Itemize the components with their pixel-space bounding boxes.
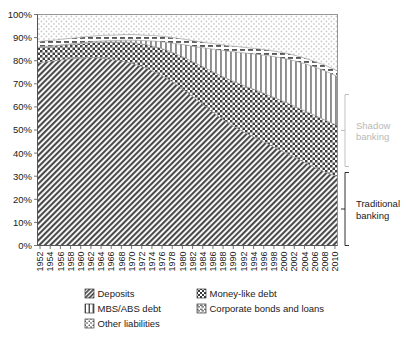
x-tick-label: 1956 <box>56 252 66 272</box>
x-tick-label: 1980 <box>178 252 188 272</box>
y-tick-label: 10% <box>13 217 33 228</box>
x-axis-ticks: 1952195419561958196019621964196619681970… <box>35 246 340 272</box>
traditional-banking-bracket-label: Traditional <box>356 198 400 209</box>
plot-area <box>38 15 338 246</box>
chart-legend: DepositsMBS/ABS debtOther liabilitiesMon… <box>85 288 324 329</box>
x-tick-label: 1964 <box>96 252 106 272</box>
x-tick-label: 1952 <box>35 252 45 272</box>
chart-container: 0%10%20%30%40%50%60%70%80%90%100% 195219… <box>0 0 408 343</box>
x-tick-label: 2002 <box>289 252 299 272</box>
legend-swatch-deposits <box>85 289 94 298</box>
y-tick-label: 100% <box>8 9 33 20</box>
x-tick-label: 2000 <box>279 252 289 272</box>
x-tick-label: 1970 <box>127 252 137 272</box>
legend-label-other-liabilities: Other liabilities <box>98 318 161 329</box>
legend-label-money-like-debt: Money-like debt <box>210 288 277 299</box>
legend-label-mbs-abs-debt: MBS/ABS debt <box>98 303 162 314</box>
x-tick-label: 1978 <box>167 252 177 272</box>
y-tick-label: 60% <box>13 101 33 112</box>
x-tick-label: 1986 <box>208 252 218 272</box>
x-tick-label: 1990 <box>228 252 238 272</box>
y-tick-label: 90% <box>13 32 33 43</box>
legend-label-deposits: Deposits <box>98 288 135 299</box>
legend-item-money-like-debt[interactable]: Money-like debt <box>197 288 277 299</box>
x-tick-label: 1996 <box>259 252 269 272</box>
x-tick-label: 1974 <box>147 252 157 272</box>
x-tick-label: 1968 <box>117 252 127 272</box>
x-tick-label: 1976 <box>157 252 167 272</box>
legend-item-mbs-abs-debt[interactable]: MBS/ABS debt <box>85 303 161 314</box>
x-tick-label: 2004 <box>300 252 310 272</box>
y-tick-label: 70% <box>13 78 33 89</box>
stacked-area-chart: 0%10%20%30%40%50%60%70%80%90%100% 195219… <box>0 0 408 343</box>
y-axis-ticks: 0%10%20%30%40%50%60%70%80%90%100% <box>8 9 38 251</box>
x-tick-label: 2006 <box>310 252 320 272</box>
y-tick-label: 20% <box>13 194 33 205</box>
y-tick-label: 0% <box>18 240 32 251</box>
x-tick-label: 1954 <box>45 252 55 272</box>
legend-item-deposits[interactable]: Deposits <box>85 288 135 299</box>
x-tick-label: 1984 <box>198 252 208 272</box>
traditional-banking-bracket <box>345 173 349 246</box>
x-tick-label: 1998 <box>269 252 279 272</box>
y-tick-label: 50% <box>13 124 33 135</box>
legend-swatch-money-like-debt <box>197 289 206 298</box>
y-tick-label: 30% <box>13 171 33 182</box>
legend-item-corporate-bonds-and-loans[interactable]: Corporate bonds and loans <box>197 303 324 314</box>
legend-item-other-liabilities[interactable]: Other liabilities <box>85 318 160 329</box>
x-tick-label: 2010 <box>330 252 340 272</box>
y-tick-label: 40% <box>13 148 33 159</box>
legend-swatch-corporate-bonds-and-loans <box>197 304 206 313</box>
x-tick-label: 2008 <box>320 252 330 272</box>
x-tick-label: 1966 <box>106 252 116 272</box>
x-tick-label: 1982 <box>188 252 198 272</box>
legend-swatch-other-liabilities <box>85 319 94 328</box>
x-tick-label: 1994 <box>249 252 259 272</box>
shadow-banking-bracket-label: Shadow <box>356 120 390 131</box>
y-tick-label: 80% <box>13 55 33 66</box>
x-tick-label: 1972 <box>137 252 147 272</box>
bracket-annotations: ShadowbankingTraditionalbanking <box>341 95 400 246</box>
legend-swatch-mbs-abs-debt <box>85 304 94 313</box>
x-tick-label: 1988 <box>218 252 228 272</box>
shadow-banking-bracket-label: banking <box>356 131 389 142</box>
x-tick-label: 1958 <box>66 252 76 272</box>
x-tick-label: 1962 <box>86 252 96 272</box>
traditional-banking-bracket-label: banking <box>356 210 389 221</box>
x-tick-label: 1960 <box>76 252 86 272</box>
x-tick-label: 1992 <box>239 252 249 272</box>
shadow-banking-bracket <box>345 95 349 167</box>
legend-label-corporate-bonds-and-loans: Corporate bonds and loans <box>210 303 325 314</box>
